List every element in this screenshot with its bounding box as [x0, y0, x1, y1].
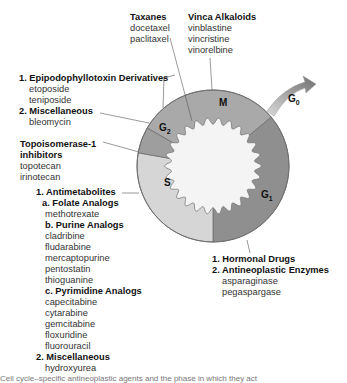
- drug-item: thioguanine: [36, 275, 142, 286]
- drug-item: teniposide: [19, 95, 168, 106]
- drug-item: floxuridine: [36, 330, 142, 341]
- drug-item: fludarabine: [36, 242, 142, 253]
- taxanes-group: Taxanes docetaxel paclitaxel: [130, 12, 170, 45]
- drug-item: gemcitabine: [36, 319, 142, 330]
- drug-item: asparaginase: [212, 276, 329, 287]
- topoisomerase-group: Topoisomerase-1 inhibitors topotecan iri…: [20, 139, 96, 183]
- drug-item: capecitabine: [36, 297, 142, 308]
- drug-item: fluorouracil: [36, 341, 142, 352]
- topoisomerase-title-line2: inhibitors: [20, 150, 96, 161]
- drug-item: docetaxel: [130, 23, 170, 34]
- drug-item: vinorelbine: [188, 45, 256, 56]
- drug-item: paclitaxel: [130, 34, 170, 45]
- drug-item: etoposide: [19, 84, 168, 95]
- phase-s-label: S: [164, 177, 171, 188]
- drug-item: irinotecan: [20, 172, 96, 183]
- drug-item: cytarabine: [36, 308, 142, 319]
- drug-item: bleomycin: [19, 117, 168, 128]
- miscellaneous-title: 2. Miscellaneous: [19, 106, 168, 117]
- drug-item: pegaspargase: [212, 287, 329, 298]
- figure-caption: Cell cycle–specific antineoplastic agent…: [0, 374, 347, 383]
- vinca-title: Vinca Alkaloids: [188, 12, 256, 23]
- hormonal-drugs-title: 1. Hormonal Drugs: [212, 254, 329, 265]
- drug-item: methotrexate: [36, 209, 142, 220]
- drug-item: hydroxyurea: [36, 363, 142, 374]
- phase-g1-label: G1: [261, 189, 273, 204]
- g2-drug-group: 1. Epipodophyllotoxin Derivatives etopos…: [19, 73, 168, 128]
- drug-item: cladribine: [36, 231, 142, 242]
- topoisomerase-title-line1: Topoisomerase-1: [20, 139, 96, 150]
- vinca-group: Vinca Alkaloids vinblastine vincristine …: [188, 12, 256, 56]
- antimetabolites-title: 1. Antimetabolites: [36, 187, 142, 198]
- drug-item: pentostatin: [36, 264, 142, 275]
- drug-item: vincristine: [188, 34, 256, 45]
- drug-item: topotecan: [20, 161, 96, 172]
- pyrimidine-analogs-title: c. Pyrimidine Analogs: [36, 286, 142, 297]
- g1-drug-group: 1. Hormonal Drugs 2. Antineoplastic Enzy…: [212, 254, 329, 298]
- purine-analogs-title: b. Purine Analogs: [36, 220, 142, 231]
- drug-item: vinblastine: [188, 23, 256, 34]
- phase-g0-label: G0: [288, 93, 300, 108]
- antineoplastic-enzymes-title: 2. Antineoplastic Enzymes: [212, 265, 329, 276]
- phase-m-label: M: [219, 97, 227, 108]
- taxanes-title: Taxanes: [130, 12, 170, 23]
- miscellaneous-title: 2. Miscellaneous: [36, 352, 142, 363]
- drug-item: mercaptopurine: [36, 253, 142, 264]
- s-drug-group: 1. Antimetabolites a. Folate Analogs met…: [36, 187, 142, 374]
- folate-analogs-title: a. Folate Analogs: [36, 198, 142, 209]
- epipodophyllotoxin-title: 1. Epipodophyllotoxin Derivatives: [19, 73, 168, 84]
